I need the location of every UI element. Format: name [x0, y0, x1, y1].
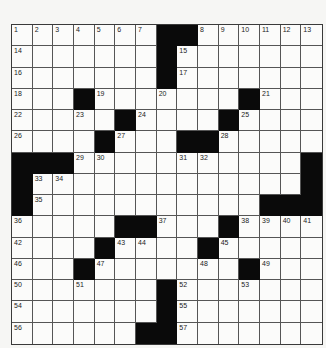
grid-cell[interactable] — [260, 301, 281, 322]
grid-cell[interactable]: 6 — [115, 25, 136, 46]
grid-cell[interactable] — [53, 216, 74, 237]
grid-cell[interactable] — [53, 46, 74, 67]
grid-cell[interactable] — [95, 110, 116, 131]
grid-cell[interactable] — [115, 46, 136, 67]
grid-cell[interactable] — [281, 301, 302, 322]
grid-cell[interactable]: 15 — [177, 46, 198, 67]
grid-cell[interactable]: 49 — [260, 259, 281, 280]
grid-cell[interactable] — [260, 323, 281, 344]
grid-cell[interactable] — [33, 301, 54, 322]
grid-cell[interactable] — [33, 216, 54, 237]
grid-cell[interactable]: 35 — [33, 195, 54, 216]
grid-cell[interactable] — [136, 153, 157, 174]
grid-cell[interactable] — [301, 301, 322, 322]
grid-cell[interactable]: 51 — [74, 280, 95, 301]
grid-cell[interactable]: 31 — [177, 153, 198, 174]
grid-cell[interactable] — [281, 110, 302, 131]
grid-cell[interactable] — [53, 238, 74, 259]
grid-cell[interactable] — [95, 216, 116, 237]
grid-cell[interactable] — [198, 68, 219, 89]
grid-cell[interactable]: 30 — [95, 153, 116, 174]
grid-cell[interactable] — [53, 89, 74, 110]
grid-cell[interactable] — [157, 174, 178, 195]
grid-cell[interactable] — [198, 280, 219, 301]
grid-cell[interactable]: 21 — [260, 89, 281, 110]
grid-cell[interactable] — [53, 259, 74, 280]
grid-cell[interactable] — [260, 46, 281, 67]
grid-cell[interactable] — [239, 195, 260, 216]
grid-cell[interactable]: 13 — [301, 25, 322, 46]
grid-cell[interactable] — [198, 174, 219, 195]
grid-cell[interactable] — [301, 131, 322, 152]
grid-cell[interactable] — [281, 280, 302, 301]
grid-cell[interactable] — [260, 238, 281, 259]
grid-cell[interactable] — [115, 174, 136, 195]
grid-cell[interactable] — [95, 301, 116, 322]
grid-cell[interactable]: 26 — [12, 131, 33, 152]
grid-cell[interactable]: 16 — [12, 68, 33, 89]
grid-cell[interactable] — [260, 153, 281, 174]
grid-cell[interactable] — [74, 238, 95, 259]
grid-cell[interactable]: 17 — [177, 68, 198, 89]
grid-cell[interactable] — [157, 131, 178, 152]
grid-cell[interactable]: 28 — [219, 131, 240, 152]
grid-cell[interactable] — [219, 195, 240, 216]
grid-cell[interactable]: 48 — [198, 259, 219, 280]
grid-cell[interactable] — [33, 280, 54, 301]
grid-cell[interactable]: 18 — [12, 89, 33, 110]
grid-cell[interactable]: 37 — [157, 216, 178, 237]
grid-cell[interactable] — [33, 89, 54, 110]
grid-cell[interactable] — [219, 323, 240, 344]
grid-cell[interactable] — [157, 259, 178, 280]
grid-cell[interactable]: 27 — [115, 131, 136, 152]
grid-cell[interactable] — [177, 174, 198, 195]
grid-cell[interactable]: 33 — [33, 174, 54, 195]
grid-cell[interactable]: 19 — [95, 89, 116, 110]
grid-cell[interactable] — [198, 110, 219, 131]
grid-cell[interactable]: 20 — [157, 89, 178, 110]
grid-cell[interactable]: 23 — [74, 110, 95, 131]
grid-cell[interactable] — [198, 216, 219, 237]
grid-cell[interactable]: 55 — [177, 301, 198, 322]
grid-cell[interactable] — [281, 259, 302, 280]
grid-cell[interactable] — [239, 301, 260, 322]
grid-cell[interactable]: 29 — [74, 153, 95, 174]
grid-cell[interactable] — [53, 131, 74, 152]
grid-cell[interactable] — [157, 153, 178, 174]
grid-cell[interactable] — [136, 68, 157, 89]
grid-cell[interactable] — [115, 195, 136, 216]
grid-cell[interactable] — [33, 68, 54, 89]
grid-cell[interactable] — [115, 280, 136, 301]
grid-cell[interactable] — [74, 46, 95, 67]
grid-cell[interactable] — [260, 68, 281, 89]
grid-cell[interactable] — [281, 89, 302, 110]
grid-cell[interactable] — [95, 46, 116, 67]
grid-cell[interactable] — [301, 68, 322, 89]
grid-cell[interactable]: 42 — [12, 238, 33, 259]
grid-cell[interactable] — [74, 195, 95, 216]
grid-cell[interactable] — [219, 89, 240, 110]
grid-cell[interactable] — [219, 280, 240, 301]
grid-cell[interactable] — [239, 174, 260, 195]
grid-cell[interactable] — [177, 110, 198, 131]
grid-cell[interactable] — [301, 280, 322, 301]
grid-cell[interactable]: 38 — [239, 216, 260, 237]
grid-cell[interactable] — [239, 238, 260, 259]
grid-cell[interactable] — [95, 195, 116, 216]
grid-cell[interactable]: 52 — [177, 280, 198, 301]
grid-cell[interactable] — [53, 68, 74, 89]
grid-cell[interactable] — [281, 46, 302, 67]
grid-cell[interactable] — [281, 131, 302, 152]
grid-cell[interactable]: 14 — [12, 46, 33, 67]
grid-cell[interactable] — [177, 89, 198, 110]
grid-cell[interactable] — [219, 259, 240, 280]
grid-cell[interactable] — [136, 174, 157, 195]
grid-cell[interactable]: 41 — [301, 216, 322, 237]
grid-cell[interactable]: 8 — [198, 25, 219, 46]
grid-cell[interactable] — [281, 153, 302, 174]
grid-cell[interactable] — [219, 301, 240, 322]
grid-cell[interactable] — [115, 301, 136, 322]
grid-cell[interactable] — [281, 323, 302, 344]
grid-cell[interactable] — [281, 238, 302, 259]
grid-cell[interactable] — [95, 174, 116, 195]
